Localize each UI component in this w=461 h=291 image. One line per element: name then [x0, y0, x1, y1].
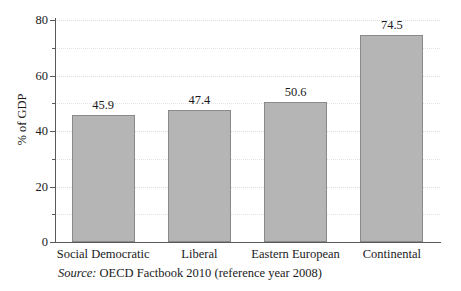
y-tick-minor [52, 103, 55, 104]
y-tick-minor [52, 159, 55, 160]
y-tick-major [50, 131, 55, 132]
bar-value-label: 74.5 [381, 18, 403, 33]
bar [264, 102, 327, 242]
y-tick-minor [52, 214, 55, 215]
bar-value-label: 45.9 [92, 98, 114, 113]
x-axis-label: Eastern European [251, 247, 340, 262]
x-axis-line [55, 242, 441, 243]
source-text: OECD Factbook 2010 (reference year 2008) [100, 266, 323, 280]
bar [72, 115, 135, 242]
bar-chart-figure: % of GDP 020406080 45.947.450.674.5 Soci… [0, 0, 461, 291]
y-tick-minor [52, 48, 55, 49]
bar-value-label: 50.6 [285, 85, 307, 100]
y-tick-label: 60 [0, 68, 48, 83]
x-axis-label: Continental [363, 247, 421, 262]
y-tick-label: 0 [0, 235, 48, 250]
source-caption: Source: OECD Factbook 2010 (reference ye… [58, 266, 322, 281]
bar-value-label: 47.4 [188, 93, 210, 108]
y-tick-label: 20 [0, 179, 48, 194]
x-axis-label: Liberal [181, 247, 217, 262]
plot-area [55, 20, 440, 242]
y-tick-label: 80 [0, 13, 48, 28]
bar [360, 35, 423, 242]
y-axis-line [55, 18, 56, 243]
x-axis-label: Social Democratic [57, 247, 150, 262]
y-tick-label: 40 [0, 124, 48, 139]
y-tick-major [50, 20, 55, 21]
source-keyword: Source: [58, 266, 96, 280]
bar [168, 110, 231, 242]
y-tick-major [50, 242, 55, 243]
y-tick-major [50, 187, 55, 188]
y-tick-major [50, 76, 55, 77]
